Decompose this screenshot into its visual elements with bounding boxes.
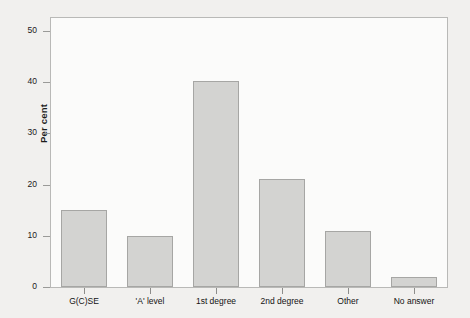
y-tick-label: 20: [28, 179, 37, 189]
x-tick-mark: [414, 288, 415, 294]
bar[interactable]: [61, 210, 107, 287]
bars-layer: [51, 18, 447, 287]
y-axis-title: Per cent: [38, 79, 49, 169]
bar[interactable]: [193, 81, 239, 287]
bar-chart: Per cent 01020304050 G(C)SE'A' level1st …: [0, 0, 470, 318]
x-tick-mark: [84, 288, 85, 294]
y-tick-label: 30: [28, 127, 37, 137]
y-tick-label: 10: [28, 230, 37, 240]
y-tick-mark: [43, 31, 50, 32]
y-tick-mark: [43, 185, 50, 186]
x-tick-mark: [216, 288, 217, 294]
y-tick-label: 0: [32, 281, 37, 291]
bar-slot: [325, 18, 371, 287]
bar-slot: [391, 18, 437, 287]
bar-slot: [61, 18, 107, 287]
bar-slot: [193, 18, 239, 287]
bar[interactable]: [259, 179, 305, 287]
x-tick-mark: [282, 288, 283, 294]
x-tick-label: No answer: [394, 296, 435, 306]
y-tick-label: 40: [28, 76, 37, 86]
x-tick-mark: [348, 288, 349, 294]
x-tick-label: Other: [337, 296, 358, 306]
bar[interactable]: [127, 236, 173, 287]
bar-slot: [127, 18, 173, 287]
y-tick-mark: [43, 82, 50, 83]
bar[interactable]: [325, 231, 371, 287]
x-tick-label: G(C)SE: [69, 296, 99, 306]
x-tick-label: 2nd degree: [260, 296, 303, 306]
bar-slot: [259, 18, 305, 287]
x-tick-label: 1st degree: [196, 296, 236, 306]
y-tick-mark: [43, 287, 50, 288]
y-tick-mark: [43, 236, 50, 237]
y-tick-mark: [43, 133, 50, 134]
x-tick-mark: [150, 288, 151, 294]
bar[interactable]: [391, 277, 437, 287]
y-tick-label: 50: [28, 25, 37, 35]
x-tick-label: 'A' level: [136, 296, 165, 306]
